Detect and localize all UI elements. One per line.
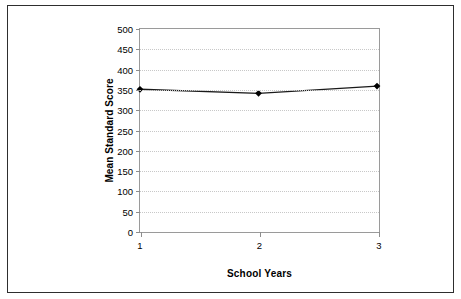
line-chart: 050100150200250300350400450500123 Mean S… [8, 6, 455, 294]
gridline [140, 212, 379, 213]
y-axis-tick-mark [136, 232, 140, 233]
x-axis-tick-label: 3 [359, 240, 399, 251]
gridline [140, 191, 379, 192]
data-point-marker [374, 83, 381, 90]
y-axis-tick-mark [136, 70, 140, 71]
y-axis-tick-mark [136, 131, 140, 132]
x-axis-tick-label: 1 [120, 240, 160, 251]
gridline [140, 110, 379, 111]
gridline [140, 171, 379, 172]
y-axis-tick-mark [136, 191, 140, 192]
gridline [140, 131, 379, 132]
x-axis-tick-label: 2 [240, 240, 280, 251]
x-axis-title: School Years [139, 268, 380, 279]
gridline [140, 70, 379, 71]
gridline [140, 49, 379, 50]
y-axis-tick-mark [136, 29, 140, 30]
data-point-marker [255, 90, 262, 97]
x-axis-tick-mark [379, 232, 380, 237]
y-axis-tick-mark [136, 49, 140, 50]
y-axis-tick-mark [136, 151, 140, 152]
gridline [140, 151, 379, 152]
figure-frame: 050100150200250300350400450500123 Mean S… [7, 5, 454, 293]
y-axis-tick-mark [136, 171, 140, 172]
plot-area: 050100150200250300350400450500123 [139, 28, 380, 233]
y-axis-title: Mean Standard Score [104, 28, 118, 233]
y-axis-tick-mark [136, 212, 140, 213]
y-axis-tick-mark [136, 110, 140, 111]
y-axis-tick-mark [136, 90, 140, 91]
x-axis-tick-mark [260, 232, 261, 237]
gridline [140, 90, 379, 91]
x-axis-tick-mark [141, 232, 142, 237]
